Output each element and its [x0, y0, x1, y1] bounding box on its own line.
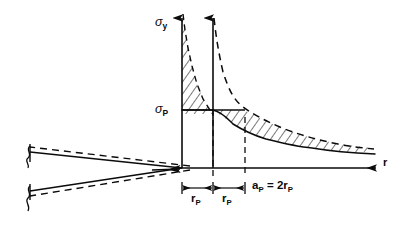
sigma-y-subscript: y — [163, 21, 168, 31]
rp-first-subscript: P — [195, 198, 200, 207]
annotation-total-plastic-zone: aP = 2rP — [252, 180, 293, 193]
axis-label-r: r — [383, 157, 387, 168]
break-symbol-upper — [27, 144, 30, 168]
ap-subscript: P — [258, 185, 263, 194]
break-symbol-lower — [27, 184, 30, 211]
axis-label-sigma-y: σy — [155, 16, 167, 30]
fracture-mechanics-figure: σy σP r rP rP aP = 2rP — [0, 0, 410, 232]
ap-value-subscript: P — [288, 185, 293, 194]
figure-canvas — [0, 0, 410, 232]
sigma-symbol: σ — [155, 15, 163, 29]
hatched-region-load-shed — [182, 14, 213, 114]
sigma-p-subscript: P — [163, 108, 169, 118]
axis-label-sigma-p: σP — [155, 103, 168, 117]
sigma-p-symbol: σ — [155, 102, 163, 116]
crack-flanks — [30, 147, 190, 196]
dimension-label-rp-first: rP — [191, 193, 201, 206]
ap-equals: = — [267, 179, 274, 191]
dimension-label-rp-second: rP — [222, 193, 232, 206]
curve-elastic-field-shifted — [214, 18, 374, 149]
rp-second-subscript: P — [226, 198, 231, 207]
